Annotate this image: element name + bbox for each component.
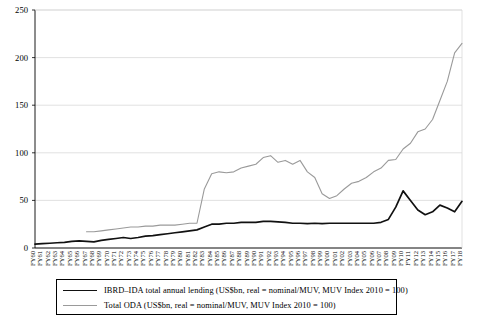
series-line-ibrd-ida — [35, 191, 462, 244]
x-axis-tick-labels: FY60FY61FY62FY63FY64FY65FY66FY67FY68FY69… — [29, 250, 463, 266]
x-tick-label: FY79 — [169, 250, 176, 266]
x-tick-label: FY15 — [434, 250, 441, 266]
x-tick-label: FY92 — [265, 251, 272, 266]
x-tick-label: FY66 — [73, 250, 80, 266]
x-tick-label: FY60 — [29, 250, 36, 266]
x-tick-label: FY67 — [81, 250, 88, 266]
x-tick-label: FY83 — [198, 250, 205, 266]
x-tick-label: FY87 — [228, 250, 235, 266]
x-tick-label: FY70 — [103, 250, 110, 266]
x-tick-label: FY10 — [397, 250, 404, 266]
x-tick-label: FY07 — [375, 250, 382, 266]
x-tick-label: FY11 — [404, 251, 411, 266]
y-tick-label: 0 — [24, 243, 28, 253]
x-tick-label: FY96 — [294, 250, 301, 266]
legend-entry-ibrd-ida: IBRD–IDA total annual lending (US$bn, re… — [63, 283, 390, 298]
x-tick-label: FY06 — [368, 250, 375, 266]
x-tick-label: FY62 — [44, 251, 51, 266]
x-tick-label: FY99 — [316, 250, 323, 266]
axis-lines — [35, 10, 462, 248]
line-chart-svg: 050100150200250 FY60FY61FY62FY63FY64FY65… — [0, 0, 479, 276]
plot-area: 050100150200250 FY60FY61FY62FY63FY64FY65… — [0, 0, 479, 276]
x-tick-label: FY98 — [309, 250, 316, 266]
x-tick-label: FY01 — [331, 251, 338, 266]
y-tick-label: 100 — [15, 148, 28, 158]
x-tick-label: FY76 — [147, 250, 154, 266]
legend-swatch-gray-line-icon — [63, 305, 97, 306]
x-tick-label: FY80 — [176, 250, 183, 266]
x-tick-label: FY03 — [346, 250, 353, 266]
x-tick-label: FY64 — [58, 250, 65, 266]
x-tick-label: FY86 — [220, 250, 227, 266]
x-tick-label: FY69 — [95, 250, 102, 266]
chart-legend: IBRD–IDA total annual lending (US$bn, re… — [56, 279, 397, 315]
x-tick-label: FY65 — [66, 250, 73, 266]
y-axis-tick-labels: 050100150200250 — [15, 5, 35, 253]
x-tick-label: FY85 — [213, 250, 220, 266]
series-layer — [35, 43, 462, 244]
x-tick-label: FY94 — [279, 250, 286, 266]
x-tick-label: FY08 — [382, 250, 389, 266]
x-tick-label: FY90 — [250, 250, 257, 266]
legend-swatch-black-line-icon — [63, 290, 97, 291]
x-tick-label: FY93 — [272, 250, 279, 266]
x-tick-label: FY68 — [88, 250, 95, 266]
x-tick-label: FY17 — [449, 250, 456, 266]
y-tick-label: 150 — [15, 100, 28, 110]
legend-label-ibrd-ida: IBRD–IDA total annual lending (US$bn, re… — [104, 286, 408, 295]
x-tick-label: FY77 — [154, 250, 161, 266]
y-tick-label: 200 — [15, 53, 28, 63]
series-line-total-oda — [87, 43, 462, 232]
x-tick-label: FY16 — [441, 250, 448, 266]
x-tick-label: FY05 — [360, 250, 367, 266]
x-tick-label: FY97 — [301, 250, 308, 266]
x-tick-label: FY12 — [412, 251, 419, 266]
x-tick-label: FY14 — [427, 250, 434, 266]
x-tick-label: FY71 — [110, 251, 117, 266]
x-tick-label: FY63 — [51, 250, 58, 266]
x-tick-label: FY84 — [206, 250, 213, 266]
x-tick-label: FY73 — [125, 250, 132, 266]
x-tick-label: FY81 — [184, 251, 191, 266]
x-tick-label: FY82 — [191, 251, 198, 266]
x-tick-label: FY95 — [287, 250, 294, 266]
x-tick-label: FY18 — [456, 250, 463, 266]
legend-label-total-oda: Total ODA (US$bn, real = nominal/MUV, MU… — [104, 301, 336, 310]
y-tick-label: 250 — [15, 5, 28, 15]
legend-entry-total-oda: Total ODA (US$bn, real = nominal/MUV, MU… — [63, 298, 390, 313]
chart-figure: 050100150200250 FY60FY61FY62FY63FY64FY65… — [0, 0, 479, 320]
x-tick-label: FY75 — [139, 250, 146, 266]
x-tick-label: FY72 — [117, 251, 124, 266]
x-tick-label: FY91 — [257, 251, 264, 266]
x-tick-label: FY02 — [338, 251, 345, 266]
x-tick-label: FY09 — [390, 250, 397, 266]
x-tick-label: FY00 — [323, 250, 330, 266]
y-tick-label: 50 — [19, 195, 28, 205]
x-tick-label: FY04 — [353, 250, 360, 266]
x-tick-label: FY61 — [36, 251, 43, 266]
x-tick-label: FY78 — [162, 250, 169, 266]
x-tick-label: FY88 — [235, 250, 242, 266]
gridlines — [35, 10, 462, 248]
x-tick-label: FY13 — [419, 250, 426, 266]
x-tick-label: FY74 — [132, 250, 139, 266]
x-tick-label: FY89 — [243, 250, 250, 266]
